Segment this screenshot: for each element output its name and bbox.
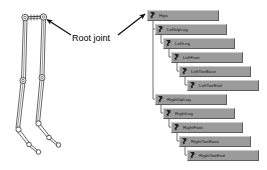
joint-left-toebase bbox=[27, 142, 32, 147]
tree-node-lefttoebase[interactable]: LeftToeBase bbox=[179, 66, 251, 77]
bone-joint-icon bbox=[157, 25, 165, 34]
joint-right-ankle bbox=[36, 121, 41, 126]
tree-node-label: RightFoot bbox=[183, 125, 203, 130]
tree-node-label: LeftUpLeg bbox=[167, 27, 188, 32]
tree-node-label: LeftFoot bbox=[183, 55, 200, 60]
tree-node-label: LeftLeg bbox=[175, 41, 190, 46]
tree-node-hips[interactable]: Hips bbox=[147, 10, 219, 21]
joint-right-hip bbox=[40, 14, 46, 20]
joint-right-toebase bbox=[47, 135, 52, 140]
tree-node-leftfoot[interactable]: LeftFoot bbox=[171, 52, 243, 63]
joint-left-ankle bbox=[16, 127, 21, 132]
joint-hierarchy-tree: Hips LeftUpLeg LeftLeg LeftFoot bbox=[143, 0, 267, 170]
diagram-root: Hips LeftUpLeg LeftLeg LeftFoot bbox=[0, 0, 267, 170]
tree-node-leftleg[interactable]: LeftLeg bbox=[163, 38, 235, 49]
tree-node-label: LeftToeEnd bbox=[199, 83, 222, 88]
tree-node-label: RightLeg bbox=[175, 111, 193, 116]
root-joint-annotation-label: Root joint bbox=[72, 33, 110, 43]
bone-joint-icon bbox=[149, 11, 157, 20]
tree-node-righttoebase[interactable]: RightToeBase bbox=[179, 136, 251, 147]
tree-node-lefttoeend[interactable]: LeftToeEnd bbox=[187, 80, 259, 91]
bone-joint-icon bbox=[157, 95, 165, 104]
bone-joint-icon bbox=[173, 123, 181, 132]
joint-left-hip bbox=[22, 14, 28, 20]
tree-node-label: LeftToeBase bbox=[191, 69, 216, 74]
joint-left-toeend bbox=[36, 150, 41, 155]
tree-node-label: RightToeBase bbox=[191, 139, 219, 144]
bone-joint-icon bbox=[165, 109, 173, 118]
joint-right-toeend bbox=[56, 143, 61, 148]
tree-node-rightleg[interactable]: RightLeg bbox=[163, 108, 235, 119]
tree-node-label: Hips bbox=[159, 13, 168, 18]
tree-node-rightfoot[interactable]: RightFoot bbox=[171, 122, 243, 133]
tree-node-leftupleg[interactable]: LeftUpLeg bbox=[155, 24, 227, 35]
skeleton-figure bbox=[0, 0, 150, 170]
skeleton-legs-icon bbox=[0, 0, 150, 170]
joint-right-knee bbox=[39, 75, 45, 81]
joint-left-knee bbox=[20, 78, 26, 84]
tree-node-label: RightUpLeg bbox=[167, 97, 191, 102]
bone-joint-icon bbox=[189, 151, 197, 160]
bone-joint-icon bbox=[189, 81, 197, 90]
tree-node-righttoeend[interactable]: RightToeEnd bbox=[187, 150, 259, 161]
bone-joint-icon bbox=[173, 53, 181, 62]
bone-joint-icon bbox=[181, 67, 189, 76]
tree-node-label: RightToeEnd bbox=[199, 153, 225, 158]
bone-joint-icon bbox=[165, 39, 173, 48]
bone-joint-icon bbox=[181, 137, 189, 146]
tree-node-rightupleg[interactable]: RightUpLeg bbox=[155, 94, 227, 105]
